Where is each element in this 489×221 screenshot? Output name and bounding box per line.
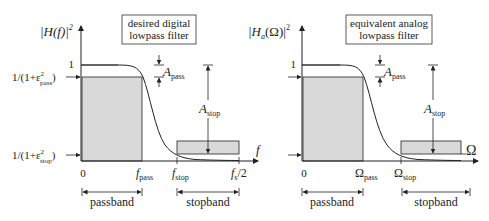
left-title-line2: lowpass filter (129, 29, 189, 41)
passband-region (303, 77, 363, 161)
y-tick-passband-level: 1/(1+ε2pass) (12, 70, 56, 87)
y-tick-stopband-level: 1/(1+ε2stop) (12, 148, 56, 165)
left-apass-label: Apass (162, 64, 185, 81)
right-astop-label: Astop (423, 101, 445, 118)
passband-region (82, 77, 142, 161)
x-tick-zero: 0 (301, 167, 307, 179)
right-stopband-label: stopband (414, 195, 457, 209)
left-y-label: |H(f)|2 (40, 23, 73, 39)
right-apass-label: Apass (383, 64, 406, 81)
left-x-axis-label: f (256, 142, 262, 157)
right-y-label: |Ha(Ω)|2 (248, 23, 290, 41)
y-tick-one: 1 (291, 58, 297, 70)
right-plot: equivalent analog lowpass filter |Ha(Ω)|… (248, 15, 478, 209)
x-tick-fpass: fpass (136, 166, 153, 182)
left-astop-label: Astop (198, 101, 220, 118)
x-tick-omega-stop: Ωstop (394, 166, 416, 182)
x-tick-omega-pass: Ωpass (355, 166, 378, 182)
x-tick-fstop: fstop (172, 166, 189, 182)
right-x-axis-label: Ω (466, 143, 476, 158)
stopband-region (401, 141, 461, 154)
left-passband-label: passband (90, 195, 134, 209)
left-title-line1: desired digital (128, 17, 191, 29)
x-tick-zero: 0 (80, 167, 86, 179)
left-plot: desired digital lowpass filter |H(f)|2 1… (12, 15, 262, 209)
right-title-line1: equivalent analog (350, 17, 428, 29)
left-stopband-label: stopband (186, 195, 229, 209)
right-title-line2: lowpass filter (359, 29, 419, 41)
y-tick-one: 1 (69, 58, 75, 70)
x-tick-half-sampling: fs/2 (231, 166, 247, 182)
right-passband-label: passband (310, 195, 354, 209)
